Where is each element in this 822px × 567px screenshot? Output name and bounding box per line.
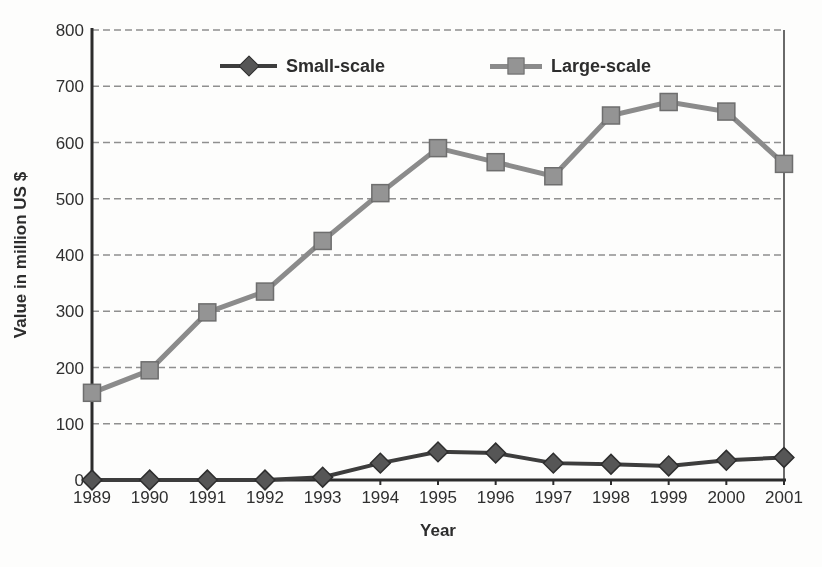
legend-label-small-scale: Small-scale xyxy=(286,56,385,77)
x-axis-title: Year xyxy=(420,521,456,541)
y-tick-label-400: 400 xyxy=(56,246,84,265)
x-tick-label-1998: 1998 xyxy=(592,488,630,507)
marker-diamond-small-scale-1996 xyxy=(486,443,506,463)
line-chart-figure: 1989199019911992199319941995199619971998… xyxy=(0,0,822,567)
marker-diamond-small-scale-1990 xyxy=(140,470,160,490)
x-tick-label-1997: 1997 xyxy=(534,488,572,507)
marker-square-large-scale-1999 xyxy=(660,94,677,111)
legend-item-large-scale: Large-scale xyxy=(490,53,651,79)
marker-square-large-scale-1997 xyxy=(545,168,562,185)
marker-square-large-scale-1994 xyxy=(372,185,389,202)
marker-square-large-scale-1998 xyxy=(603,107,620,124)
marker-diamond-small-scale-1992 xyxy=(255,470,275,490)
x-tick-label-2001: 2001 xyxy=(765,488,803,507)
legend-label-large-scale: Large-scale xyxy=(551,56,651,77)
y-tick-label-800: 800 xyxy=(56,21,84,40)
diamond-marker-icon xyxy=(238,55,259,76)
marker-square-large-scale-1993 xyxy=(314,232,331,249)
y-tick-label-500: 500 xyxy=(56,190,84,209)
marker-diamond-small-scale-1993 xyxy=(313,467,333,487)
marker-diamond-small-scale-2001 xyxy=(774,448,794,468)
marker-diamond-small-scale-1995 xyxy=(428,442,448,462)
marker-diamond-small-scale-2000 xyxy=(716,450,736,470)
marker-square-large-scale-1992 xyxy=(257,283,274,300)
square-marker-icon xyxy=(508,58,525,75)
y-tick-label-200: 200 xyxy=(56,359,84,378)
chart-plot-area: 1989199019911992199319941995199619971998… xyxy=(0,0,822,567)
marker-square-large-scale-2000 xyxy=(718,103,735,120)
x-tick-label-2000: 2000 xyxy=(707,488,745,507)
marker-diamond-small-scale-1989 xyxy=(82,470,102,490)
marker-diamond-small-scale-1997 xyxy=(543,453,563,473)
marker-diamond-small-scale-1994 xyxy=(370,453,390,473)
y-tick-label-100: 100 xyxy=(56,415,84,434)
marker-square-large-scale-1991 xyxy=(199,304,216,321)
x-tick-label-1994: 1994 xyxy=(361,488,399,507)
marker-diamond-small-scale-1991 xyxy=(197,470,217,490)
marker-diamond-small-scale-1998 xyxy=(601,454,621,474)
legend-line-small-scale xyxy=(220,64,277,68)
marker-square-large-scale-1996 xyxy=(487,154,504,171)
y-tick-label-700: 700 xyxy=(56,77,84,96)
marker-diamond-small-scale-1999 xyxy=(659,456,679,476)
marker-square-large-scale-1990 xyxy=(141,362,158,379)
marker-square-large-scale-1989 xyxy=(84,384,101,401)
legend-item-small-scale: Small-scale xyxy=(220,53,385,79)
y-tick-label-300: 300 xyxy=(56,302,84,321)
x-tick-label-1995: 1995 xyxy=(419,488,457,507)
x-tick-label-1996: 1996 xyxy=(477,488,515,507)
x-tick-label-1993: 1993 xyxy=(304,488,342,507)
y-tick-label-600: 600 xyxy=(56,134,84,153)
x-tick-label-1999: 1999 xyxy=(650,488,688,507)
marker-square-large-scale-1995 xyxy=(430,140,447,157)
legend-line-large-scale xyxy=(490,64,542,69)
y-axis-title: Value in million US $ xyxy=(11,172,31,338)
marker-square-large-scale-2001 xyxy=(776,155,793,172)
